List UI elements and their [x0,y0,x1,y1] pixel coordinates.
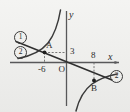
curve-label-1: 1 [14,31,27,44]
circled-number-2-left: 2 [14,46,27,59]
figure-container: y x O -6 8 3 A B 1 2 2 [0,0,130,112]
point-a-marker [43,50,47,54]
origin-label: O [59,65,66,74]
intersecting-line [16,42,112,81]
x-axis-arrowhead [115,61,120,64]
circled-number-2-right: 2 [110,70,123,83]
point-b-label: B [91,84,97,93]
point-b-marker [92,79,96,83]
x-tick-label-minus-6: -6 [38,65,46,74]
y-axis-label: y [69,10,73,20]
x-axis-label: x [108,52,112,62]
circled-number-1: 1 [14,31,27,44]
point-a-label: A [46,41,53,50]
curve-label-2-right: 2 [110,70,123,83]
y-tick-label-3: 3 [70,47,75,56]
curve-label-2-left: 2 [14,46,27,59]
x-tick-label-8: 8 [91,51,96,60]
